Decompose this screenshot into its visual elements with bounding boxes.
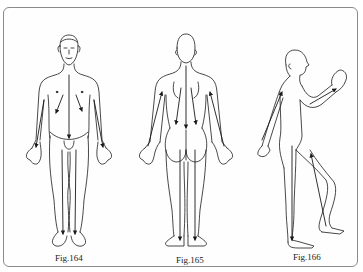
- front-body-figure: [26, 35, 111, 246]
- figure-caption-166: Fig.166: [293, 252, 321, 262]
- side-meridian-arrows: [262, 89, 336, 240]
- figure-illustrations: [0, 0, 363, 272]
- figure-caption-164: Fig.164: [55, 253, 83, 263]
- figure-caption-165: Fig.165: [176, 255, 204, 265]
- side-body-figure: [258, 50, 347, 248]
